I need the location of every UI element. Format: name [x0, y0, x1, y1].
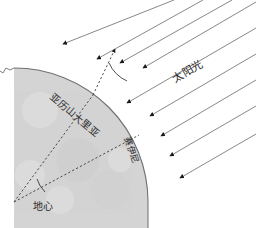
sun-ray [63, 0, 174, 44]
alexandria-gnomon-line [93, 49, 115, 95]
diagram-canvas: 太阳光 亚历山大里亚 赛伊尼 地心 [0, 0, 256, 228]
alexandria-angle-arc [109, 63, 127, 81]
label-sunlight: 太阳光 [170, 57, 206, 86]
eratosthenes-diagram: 太阳光 亚历山大里亚 赛伊尼 地心 [0, 0, 256, 228]
sun-ray [170, 106, 256, 156]
label-earth-center: 地心 [33, 200, 53, 212]
sun-ray [180, 134, 256, 178]
earth-torn-edge [0, 68, 14, 73]
sun-ray [150, 54, 256, 116]
sun-ray [97, 0, 203, 59]
sun-ray [120, 0, 232, 63]
sun-ray [143, 2, 256, 68]
sun-ray [161, 80, 256, 136]
